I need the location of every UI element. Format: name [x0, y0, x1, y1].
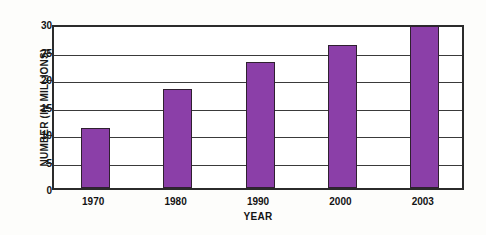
x-tick-label-2000: 2000	[305, 196, 375, 207]
bar-1980	[163, 89, 192, 188]
plot-area	[52, 25, 464, 190]
y-tick-label-30: 30	[22, 20, 52, 31]
bar-chart-figure: NUMBER (IN MILLIONS) 051015202530 197019…	[0, 0, 486, 235]
bar-2003	[410, 26, 439, 188]
bar-1970	[81, 128, 110, 189]
bar-2000	[328, 45, 357, 188]
gridline-25	[54, 55, 462, 56]
x-tick-label-2003: 2003	[388, 196, 458, 207]
x-axis-title: YEAR	[52, 211, 464, 222]
y-tick-label-0: 0	[22, 185, 52, 196]
x-tick-label-1970: 1970	[58, 196, 128, 207]
x-tick-label-1980: 1980	[141, 196, 211, 207]
x-tick-label-1990: 1990	[223, 196, 293, 207]
bar-1990	[246, 62, 275, 189]
y-axis-ticks: 051015202530	[0, 25, 52, 190]
